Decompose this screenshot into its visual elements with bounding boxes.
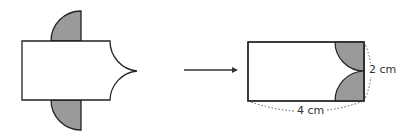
arrow-icon — [184, 67, 238, 73]
width-label: 4 cm — [295, 104, 326, 118]
left-body — [22, 41, 137, 100]
bottom-quarter-circle — [51, 100, 81, 130]
left-figure — [22, 11, 137, 130]
top-quarter-circle — [51, 11, 81, 41]
right-figure — [248, 42, 371, 112]
diagram — [0, 0, 417, 137]
height-label: 2 cm — [369, 63, 396, 77]
